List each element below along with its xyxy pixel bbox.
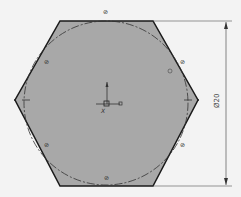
relation-marker-lower-left[interactable]: ⊘ <box>44 141 49 148</box>
relation-marker-upper-right[interactable]: ⊘ <box>180 58 185 65</box>
sketch-canvas[interactable]: ⊘ ⊘ ⊘ ⊘ ⊘ ⊘ X Ø20 <box>0 0 241 197</box>
dimension-label[interactable]: Ø20 <box>213 94 221 108</box>
hexagon[interactable] <box>15 21 198 186</box>
relation-marker-lower-right[interactable]: ⊘ <box>180 141 185 148</box>
relation-marker-top[interactable]: ⊘ <box>103 8 108 15</box>
relation-marker-bottom[interactable]: ⊘ <box>104 174 109 181</box>
origin-axis-label: X <box>101 107 105 114</box>
vertex-right[interactable] <box>197 99 199 101</box>
dimension-arrow-bottom <box>224 178 228 185</box>
vertex-left[interactable] <box>14 99 16 101</box>
dimension-arrow-top <box>224 22 228 29</box>
relation-marker-upper-left[interactable]: ⊘ <box>44 58 49 65</box>
sketch-geometry <box>0 0 241 197</box>
